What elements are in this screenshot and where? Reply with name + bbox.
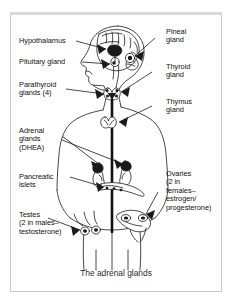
pancreas-structure (98, 183, 144, 197)
label-pancreatic-islets: Pancreatic islets (19, 173, 53, 190)
label-adrenal-glands: Adrenal glands (DHEA) (19, 127, 44, 152)
hypothalamus-structure (108, 45, 122, 56)
thymus-structure (101, 117, 117, 128)
label-pituitary-gland: Pituitary gland (19, 58, 65, 66)
label-pineal-gland: Pineal gland (166, 28, 186, 45)
label-ovaries: Ovaries (2 in females– estrogen/ progest… (166, 170, 211, 212)
pineal-structure (125, 53, 134, 62)
pituitary-structure (111, 57, 119, 67)
label-hypothalamus: Hypothalamus (19, 37, 66, 45)
figure-stage: Hypothalamus Pituitary gland Parathyroid… (0, 0, 235, 304)
figure-caption: The adrenal glands (10, 268, 222, 278)
label-testes: Testes (2 in males– testosterone) (19, 211, 62, 236)
label-thyroid-gland: Thyroid gland (166, 63, 190, 80)
label-parathyroid-glands: Parathyroid glands (4) (19, 81, 56, 98)
uterus-ovaries-structure (117, 210, 151, 242)
label-thymus-gland: Thymus gland (166, 98, 192, 115)
